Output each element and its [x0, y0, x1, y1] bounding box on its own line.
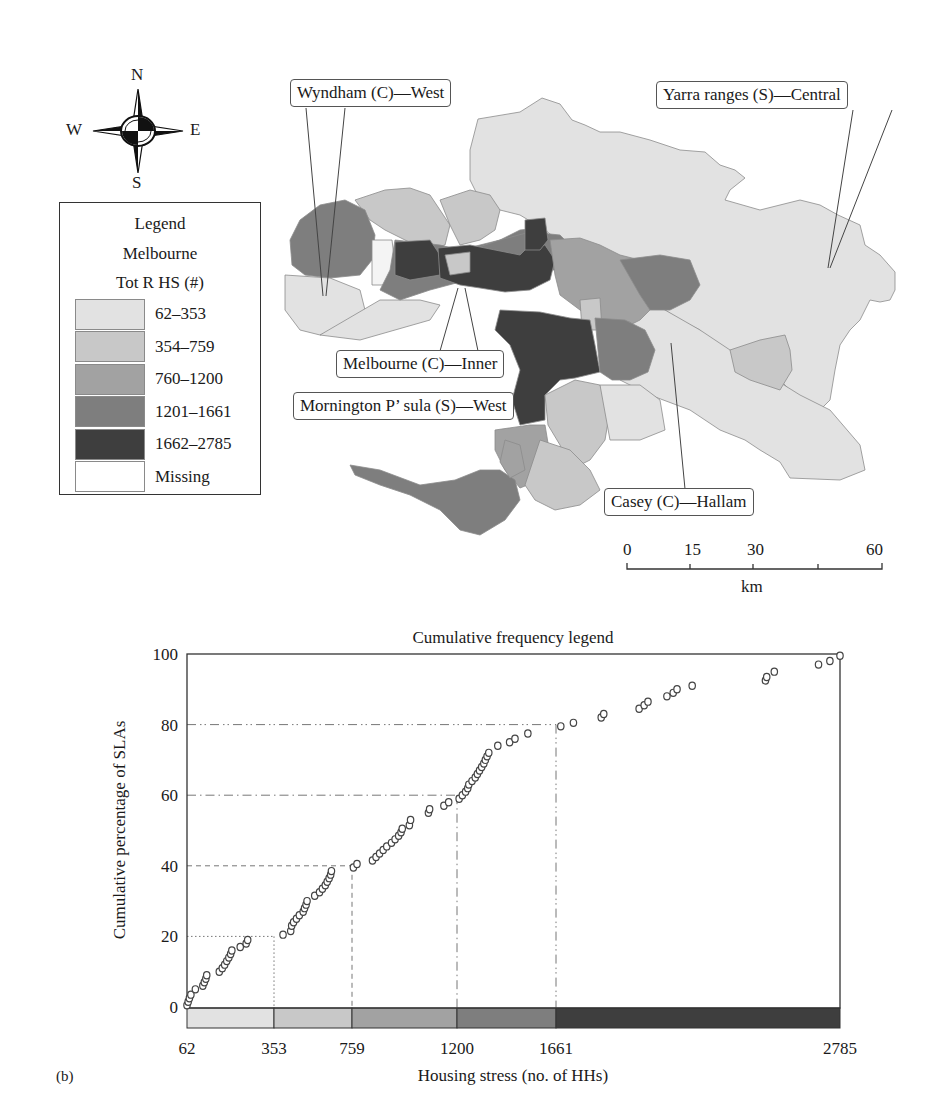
x-tick-label: 759 [339, 1039, 365, 1058]
data-point [837, 652, 843, 659]
reference-lines [187, 725, 556, 1007]
legend-item-class-3: 760–1200 [75, 363, 223, 395]
y-tick-label: 20 [161, 927, 178, 946]
legend-item-class-2: 354–759 [75, 331, 215, 363]
panel-label: (b) [56, 1068, 74, 1085]
color-bar-segment [457, 1008, 556, 1028]
x-tick-label: 353 [261, 1039, 287, 1058]
choropleth-map [280, 60, 940, 560]
legend-label: 62–353 [155, 304, 206, 324]
callout-yarra-ranges: Yarra ranges (S)—Central [656, 81, 848, 109]
data-point [827, 657, 833, 664]
data-point [229, 947, 235, 954]
data-point [495, 742, 501, 749]
y-tick-label: 60 [161, 786, 178, 805]
region-inner-dark-a [395, 240, 440, 280]
x-axis-label: Housing stress (no. of HHs) [418, 1066, 608, 1085]
chart-title: Cumulative frequency legend [412, 628, 614, 647]
legend-label: Missing [155, 467, 210, 487]
legend-swatch [75, 429, 145, 460]
data-point [304, 898, 310, 905]
data-point [512, 735, 518, 742]
y-tick-label: 0 [170, 998, 179, 1017]
region-north-west-b [440, 190, 500, 245]
data-point [244, 936, 250, 943]
scale-tick-label: 15 [684, 541, 701, 558]
legend-label: 1662–2785 [155, 434, 232, 454]
data-point [328, 867, 334, 874]
class-color-bar [187, 1008, 840, 1028]
compass-south-label: S [132, 174, 141, 191]
legend-label: 760–1200 [155, 369, 223, 389]
scale-tick-label: 30 [747, 541, 764, 558]
data-point [445, 799, 451, 806]
x-tick-label: 62 [179, 1039, 196, 1058]
legend-label: 354–759 [155, 337, 215, 357]
legend-variable: Tot R HS (#) [60, 274, 260, 291]
data-point [192, 986, 198, 993]
data-point [486, 749, 492, 756]
data-point [764, 673, 770, 680]
x-tick-label: 1661 [539, 1039, 573, 1058]
scale-unit-label: km [741, 578, 763, 595]
legend-item-class-1: 62–353 [75, 298, 206, 330]
data-point [525, 730, 531, 737]
legend-swatch [75, 299, 145, 330]
compass-west-label: W [66, 121, 82, 138]
data-point [674, 686, 680, 693]
legend-label: 1201–1661 [155, 402, 232, 422]
data-point [645, 698, 651, 705]
color-bar-segment [352, 1008, 457, 1028]
region-cbd-light [445, 252, 470, 275]
data-point [280, 931, 286, 938]
callout-casey: Casey (C)—Hallam [604, 488, 754, 516]
region-west-medium [290, 200, 375, 278]
legend-swatch [75, 461, 145, 492]
compass-east-label: E [190, 121, 200, 138]
region-bellarine [350, 465, 520, 535]
legend-swatch [75, 331, 145, 362]
legend-subtitle: Melbourne [60, 245, 260, 262]
legend-title: Legend [60, 215, 260, 232]
legend-swatch [75, 396, 145, 427]
data-point [664, 693, 670, 700]
color-bar-segment [556, 1008, 840, 1028]
scale-tick-label: 0 [623, 541, 632, 558]
y-axis-ticks: 020406080100 [153, 645, 179, 1017]
legend-swatch [75, 364, 145, 395]
legend-item-missing: Missing [75, 461, 210, 493]
x-tick-label: 1200 [440, 1039, 474, 1058]
data-point [237, 943, 243, 950]
data-point [204, 972, 210, 979]
compass-north-label: N [131, 66, 143, 83]
compass-icon [88, 86, 188, 176]
data-point [426, 806, 432, 813]
y-axis-label: Cumulative percentage of SLAs [110, 721, 129, 940]
map-legend: Legend Melbourne Tot R HS (#) 62–353 354… [59, 202, 261, 495]
x-tick-label: 2785 [823, 1039, 857, 1058]
scale-bar-line [620, 560, 890, 576]
y-tick-label: 40 [161, 857, 178, 876]
legend-item-class-4: 1201–1661 [75, 396, 232, 428]
data-point [771, 668, 777, 675]
y-tick-label: 80 [161, 716, 178, 735]
callout-mornington: Mornington P’ sula (S)—West [293, 392, 514, 420]
plot-frame [187, 654, 840, 1008]
x-axis-ticks: 62353759120016612785 [179, 1039, 858, 1058]
data-point [601, 710, 607, 717]
color-bar-segment [187, 1008, 274, 1028]
data-point [354, 860, 360, 867]
data-point [815, 661, 821, 668]
data-point [570, 719, 576, 726]
scale-tick-label: 60 [866, 541, 883, 558]
legend-item-class-5: 1662–2785 [75, 428, 232, 460]
data-point [558, 723, 564, 730]
callout-melbourne: Melbourne (C)—Inner [336, 350, 504, 378]
data-point [399, 825, 405, 832]
color-bar-segment [274, 1008, 352, 1028]
data-point [407, 816, 413, 823]
data-point [689, 682, 695, 689]
chart-canvas: Cumulative frequency legend Cumulative p… [0, 600, 948, 1104]
data-points [184, 652, 843, 1009]
callout-wyndham: Wyndham (C)—West [290, 79, 451, 107]
